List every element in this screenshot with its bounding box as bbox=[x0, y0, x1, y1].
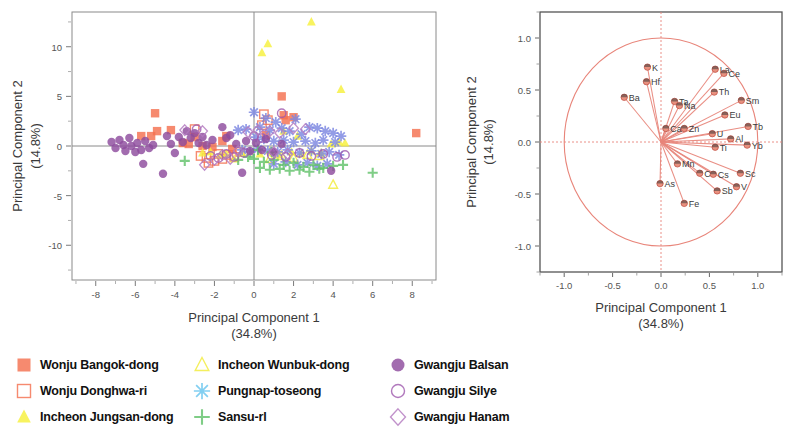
y-axis-title: Principal Component 2 bbox=[10, 80, 25, 212]
y-tick-label: -10 bbox=[48, 240, 62, 251]
y-axis-title: Principal Component 2 bbox=[464, 76, 479, 208]
x-tick-label: -6 bbox=[131, 289, 139, 300]
data-point bbox=[208, 136, 216, 144]
loading-point bbox=[712, 66, 718, 72]
loading-point bbox=[711, 89, 717, 95]
legend-label: Incheon Wunbuk-dong bbox=[218, 358, 349, 372]
loading-label: Na bbox=[684, 101, 696, 111]
x-axis-title: Principal Component 1 bbox=[595, 300, 727, 315]
loading-label: Eu bbox=[729, 110, 740, 120]
loading-label: Sb bbox=[722, 186, 733, 196]
loading-point bbox=[721, 70, 727, 76]
legend: Wonju Bangok-dongWonju Donghwa-riIncheon… bbox=[0, 352, 799, 439]
loading-label: Al bbox=[735, 134, 743, 144]
legend-symbol-open-diamond-icon bbox=[388, 407, 408, 427]
loading-point bbox=[744, 142, 750, 148]
data-point bbox=[392, 385, 405, 398]
data-point bbox=[163, 132, 171, 140]
loading-plot-panel: -1.0-0.50.00.51.01.00.50.0-0.5-1.0KHfBaT… bbox=[464, 12, 782, 331]
loading-label: Ca bbox=[670, 124, 682, 134]
x-tick-label: -0.5 bbox=[604, 280, 620, 291]
loading-label: Yb bbox=[752, 141, 763, 151]
data-point bbox=[17, 410, 31, 423]
legend-item: Wonju Donghwa-ri bbox=[14, 378, 174, 404]
loading-point bbox=[663, 125, 669, 131]
loading-point bbox=[727, 136, 733, 142]
data-point bbox=[218, 123, 226, 131]
loading-label: Cs bbox=[718, 170, 729, 180]
loading-point bbox=[722, 112, 728, 118]
x-tick-label: -2 bbox=[210, 289, 218, 300]
data-point bbox=[320, 126, 331, 137]
x-axis-subtitle: (34.8%) bbox=[231, 326, 277, 341]
data-point bbox=[327, 167, 335, 175]
x-tick-label: -4 bbox=[171, 289, 179, 300]
legend-label: Gwangju Balsan bbox=[414, 358, 508, 372]
legend-label: Sansu-rl bbox=[218, 410, 266, 424]
loading-label: Th bbox=[719, 87, 730, 97]
legend-item: Gwangju Balsan bbox=[388, 352, 509, 378]
data-point bbox=[153, 127, 161, 135]
legend-item: Incheon Jungsan-dong bbox=[14, 404, 174, 430]
x-tick-label: 0.0 bbox=[654, 280, 667, 291]
loading-label: Tb bbox=[753, 122, 764, 132]
y-tick-label: -0.5 bbox=[515, 189, 531, 200]
legend-symbol-asterisk-icon bbox=[192, 381, 212, 401]
legend-symbol-filled-circle-icon bbox=[388, 355, 408, 375]
loading-point bbox=[621, 94, 627, 100]
x-axis-subtitle: (34.8%) bbox=[638, 316, 684, 331]
legend-item: Gwangju Silye bbox=[388, 378, 509, 404]
loading-label: V bbox=[741, 182, 747, 192]
loading-point bbox=[697, 170, 703, 176]
x-tick-label: 6 bbox=[370, 289, 375, 300]
legend-item: Sansu-rl bbox=[192, 404, 349, 430]
legend-symbol-filled-square-icon bbox=[14, 355, 34, 375]
data-point bbox=[300, 136, 311, 147]
y-tick-label: 10 bbox=[51, 42, 62, 53]
x-axis-title: Principal Component 1 bbox=[188, 310, 320, 325]
loading-point bbox=[676, 102, 682, 108]
legend-label: Wonju Bangok-dong bbox=[40, 358, 159, 372]
loading-label: Ce bbox=[728, 69, 740, 79]
data-point bbox=[18, 385, 31, 398]
legend-column-2: Incheon Wunbuk-dongPungnap-toseongSansu-… bbox=[192, 352, 349, 430]
legend-symbol-open-circle-icon bbox=[388, 381, 408, 401]
data-point bbox=[137, 146, 145, 154]
y-tick-label: 5 bbox=[57, 91, 62, 102]
pca-figure-svg: -8-6-4-2024681050-5-10Principal Componen… bbox=[0, 0, 799, 352]
loading-point bbox=[745, 123, 751, 129]
data-point bbox=[194, 409, 210, 425]
loading-point bbox=[710, 171, 716, 177]
legend-label: Incheon Jungsan-dong bbox=[40, 410, 174, 424]
loading-point bbox=[643, 78, 649, 84]
data-point bbox=[18, 359, 31, 372]
loading-point bbox=[681, 200, 687, 206]
data-point bbox=[226, 131, 234, 139]
legend-label: Gwangju Hanam bbox=[414, 410, 509, 424]
legend-item: Pungnap-toseong bbox=[192, 378, 349, 404]
data-point bbox=[195, 358, 209, 371]
legend-symbol-filled-triangle-icon bbox=[14, 407, 34, 427]
loading-label: Fe bbox=[689, 199, 700, 209]
loading-point bbox=[644, 64, 650, 70]
legend-symbol-plus-icon bbox=[192, 407, 212, 427]
x-tick-label: 2 bbox=[291, 289, 296, 300]
loading-point bbox=[681, 125, 687, 131]
loading-label: Sc bbox=[745, 169, 756, 179]
data-point bbox=[391, 409, 406, 425]
y-tick-label: -1.0 bbox=[515, 241, 531, 252]
legend-symbol-open-triangle-icon bbox=[192, 355, 212, 375]
data-point bbox=[261, 113, 272, 124]
y-tick-label: 0 bbox=[57, 141, 62, 152]
data-point bbox=[238, 169, 246, 177]
data-point bbox=[194, 383, 210, 399]
x-tick-label: 0 bbox=[251, 289, 256, 300]
data-point bbox=[392, 359, 405, 372]
loading-point bbox=[674, 161, 680, 167]
y-tick-label: 0.5 bbox=[518, 85, 531, 96]
data-point bbox=[318, 135, 329, 146]
loading-point bbox=[709, 130, 715, 136]
data-point bbox=[242, 137, 250, 145]
loading-label: K bbox=[652, 63, 658, 73]
y-axis-subtitle: (14.8%) bbox=[481, 119, 496, 165]
